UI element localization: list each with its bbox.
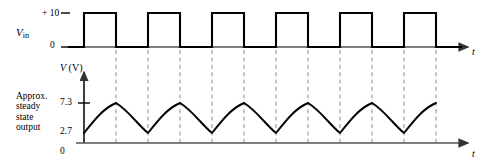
- vin-axis-label: Vin: [16, 27, 29, 41]
- bottom-y-axis-label: V (V): [60, 63, 83, 74]
- top-tick-label-high: + 10: [42, 8, 59, 18]
- top-panel-group: [61, 12, 468, 47]
- dashed-gridlines-group: [116, 50, 436, 143]
- figure-container: Vin + 10 0 t V (V) Approx. steady state …: [0, 0, 486, 167]
- bottom-tick-label-zero: 0: [60, 146, 65, 156]
- approx-steady-state-output-label: Approx. steady state output: [16, 91, 47, 132]
- top-tick-label-zero: 0: [50, 40, 55, 50]
- bottom-panel-group: [76, 72, 468, 143]
- waveform-svg: [0, 0, 486, 167]
- bottom-tick-label-high: 7.3: [60, 97, 72, 107]
- top-x-axis-label: t: [472, 47, 475, 58]
- bottom-tick-label-low: 2.7: [60, 126, 72, 136]
- bottom-x-axis-label: t: [472, 149, 475, 160]
- output-ripple-wave: [84, 103, 436, 133]
- input-square-wave: [68, 13, 462, 47]
